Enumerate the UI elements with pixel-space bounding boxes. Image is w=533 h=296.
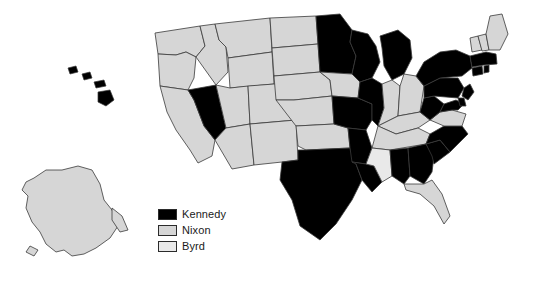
state-MA[interactable] (470, 52, 497, 67)
state-RI[interactable] (484, 65, 489, 73)
state-SD[interactable] (272, 44, 320, 76)
state-WY[interactable] (228, 52, 274, 88)
state-HI-maui[interactable] (94, 80, 106, 88)
legend-label-nixon: Nixon (182, 225, 211, 236)
state-WA[interactable] (155, 26, 205, 57)
state-FL[interactable] (404, 180, 450, 224)
state-AK-aleutians[interactable] (26, 246, 38, 256)
state-HI-bigisland[interactable] (98, 90, 114, 106)
state-TX[interactable] (280, 148, 362, 240)
state-CT[interactable] (472, 66, 483, 76)
legend-swatch-kennedy (158, 209, 177, 220)
election-results-map: Kennedy Nixon Byrd (0, 0, 533, 296)
state-OK[interactable] (296, 124, 350, 150)
state-AK[interactable] (22, 166, 128, 256)
state-AK-mainland[interactable] (22, 166, 118, 256)
state-NM[interactable] (250, 120, 298, 165)
state-AL[interactable] (390, 148, 410, 184)
legend-swatch-byrd (158, 241, 177, 252)
us-map-graphic (0, 0, 533, 296)
state-ME[interactable] (486, 14, 508, 50)
legend-label-kennedy: Kennedy (182, 209, 226, 220)
state-NE[interactable] (274, 72, 332, 100)
state-HI-kauai[interactable] (68, 66, 78, 74)
legend-item-nixon: Nixon (158, 223, 248, 238)
map-legend: Kennedy Nixon Byrd (158, 207, 248, 255)
legend-swatch-nixon (158, 225, 177, 236)
state-HI[interactable] (68, 66, 114, 106)
state-NJ[interactable] (462, 84, 474, 100)
state-HI-oahu[interactable] (82, 72, 92, 80)
legend-item-kennedy: Kennedy (158, 207, 248, 222)
state-MN[interactable] (316, 14, 356, 74)
legend-item-byrd: Byrd (158, 239, 248, 254)
state-ND[interactable] (270, 16, 318, 48)
state-OR[interactable] (158, 52, 196, 90)
legend-label-byrd: Byrd (182, 241, 205, 252)
state-MI[interactable] (380, 30, 412, 80)
